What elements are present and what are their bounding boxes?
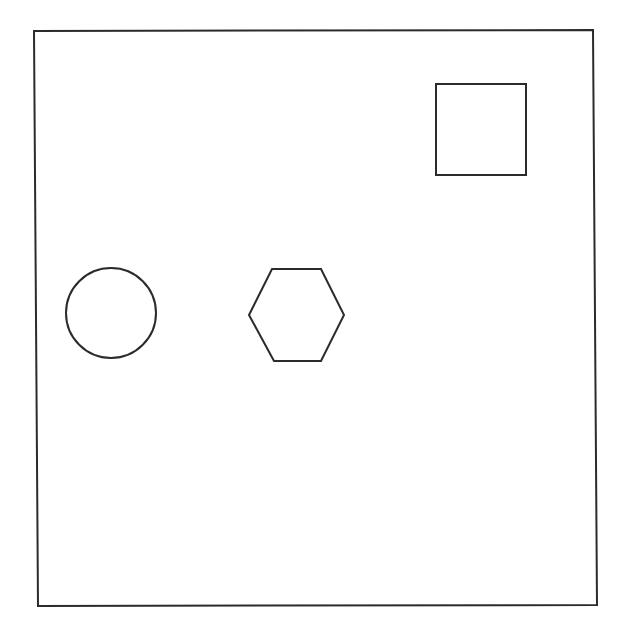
frame-border (34, 30, 597, 606)
hexagon-shape (249, 269, 344, 361)
circle-shape (66, 268, 156, 358)
diagram-canvas (0, 0, 621, 625)
square-shape (436, 84, 526, 175)
